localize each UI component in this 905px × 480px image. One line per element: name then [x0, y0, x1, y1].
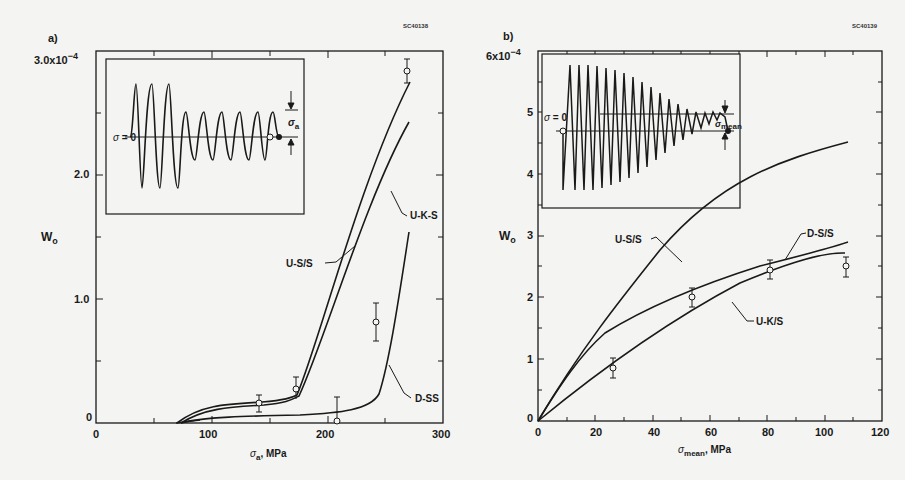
curve-label-d-s-s: D-S/S [807, 228, 834, 239]
curve-label-u-k-s-b: U-K/S [756, 316, 784, 327]
data-points-b [610, 257, 849, 378]
curve-u-k-s-b [538, 253, 845, 421]
curve-label-u-s-s-b: U-S/S [615, 234, 642, 245]
curve-d-s-s-b [538, 242, 848, 421]
svg-text:σ = 0: σ = 0 [544, 112, 567, 123]
chart-b-plot: σ = 0 σmean U-S/S D-S/S U-K/S [0, 0, 905, 480]
